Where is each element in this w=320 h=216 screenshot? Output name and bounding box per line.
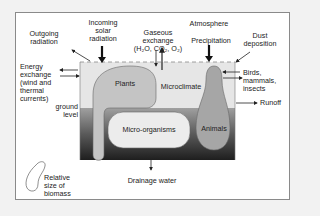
precipitation-label: Precipitation — [182, 37, 240, 45]
plants-label: Plants — [100, 80, 150, 88]
atmosphere-label: Atmosphere — [182, 20, 236, 28]
outgoing-radiation-label: Outgoing radiation — [20, 30, 68, 46]
microclimate-label: Microclimate — [156, 83, 206, 91]
outgoing-radiation-arrow — [72, 50, 90, 61]
gaseous-exchange-label: Gaseous exchange (H₂O, CO₂, O₂) — [130, 29, 186, 53]
micro-organisms-label: Micro-organisms — [108, 126, 190, 134]
incoming-solar-radiation-label: Incoming solar radiation — [82, 19, 124, 43]
birds-mammals-insects-label: Birds, mammals, insects — [243, 69, 287, 93]
biomass-legend-shape — [26, 162, 45, 191]
dust-deposition-arrow — [236, 52, 250, 62]
ground-level-label: ground level — [50, 103, 78, 119]
runoff-label: Runoff — [260, 99, 290, 107]
animals-label: Animals — [196, 125, 232, 133]
energy-exchange-label: Energy exchange (wind and thermal curren… — [20, 63, 60, 103]
drainage-water-label: Drainage water — [120, 177, 184, 185]
biomass-legend-label: Relative size of biomass — [44, 174, 84, 198]
dust-deposition-label: Dust deposition — [238, 32, 282, 48]
